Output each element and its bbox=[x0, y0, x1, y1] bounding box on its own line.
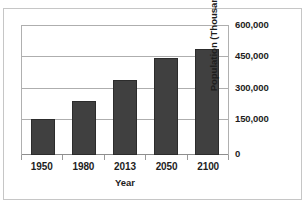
bar-slot-2013 bbox=[104, 25, 145, 155]
y-axis-label-300000: 300,000 bbox=[235, 82, 285, 93]
y-axis-label-150000: 150,000 bbox=[235, 113, 285, 124]
y-axis-labels: 600,000 450,000 300,000 150,000 0 bbox=[235, 9, 285, 201]
bar-slot-1980 bbox=[63, 25, 104, 155]
x-tick bbox=[104, 155, 105, 160]
x-tick bbox=[187, 155, 188, 160]
x-tick bbox=[62, 155, 63, 160]
y-axis-title: Population (Thousands) bbox=[208, 0, 222, 107]
chart-frame: 1950 1980 2013 2050 2100 Year 600,000 45… bbox=[3, 8, 302, 200]
bar-series bbox=[22, 25, 228, 155]
x-tick bbox=[21, 155, 22, 160]
plot-area bbox=[21, 25, 229, 155]
y-axis-label-0: 0 bbox=[235, 148, 285, 159]
bar-2013[interactable] bbox=[113, 80, 137, 155]
x-axis-label-1980: 1980 bbox=[63, 161, 105, 172]
bar-1980[interactable] bbox=[72, 101, 96, 155]
x-tick bbox=[228, 155, 229, 160]
x-axis-ticks bbox=[21, 155, 229, 160]
bar-slot-2050 bbox=[146, 25, 187, 155]
x-axis-labels: 1950 1980 2013 2050 2100 bbox=[21, 161, 229, 172]
x-tick bbox=[145, 155, 146, 160]
bar-slot-1950 bbox=[22, 25, 63, 155]
x-axis-label-1950: 1950 bbox=[21, 161, 63, 172]
x-axis-label-2013: 2013 bbox=[104, 161, 146, 172]
bar-2050[interactable] bbox=[154, 58, 178, 156]
x-axis-label-2100: 2100 bbox=[187, 161, 229, 172]
x-axis-label-2050: 2050 bbox=[146, 161, 188, 172]
y-axis-label-450000: 450,000 bbox=[235, 50, 285, 61]
y-axis-label-600000: 600,000 bbox=[235, 19, 285, 30]
top-text-sliver bbox=[0, 0, 306, 7]
x-axis-title: Year bbox=[21, 177, 229, 188]
bar-1950[interactable] bbox=[31, 119, 55, 155]
